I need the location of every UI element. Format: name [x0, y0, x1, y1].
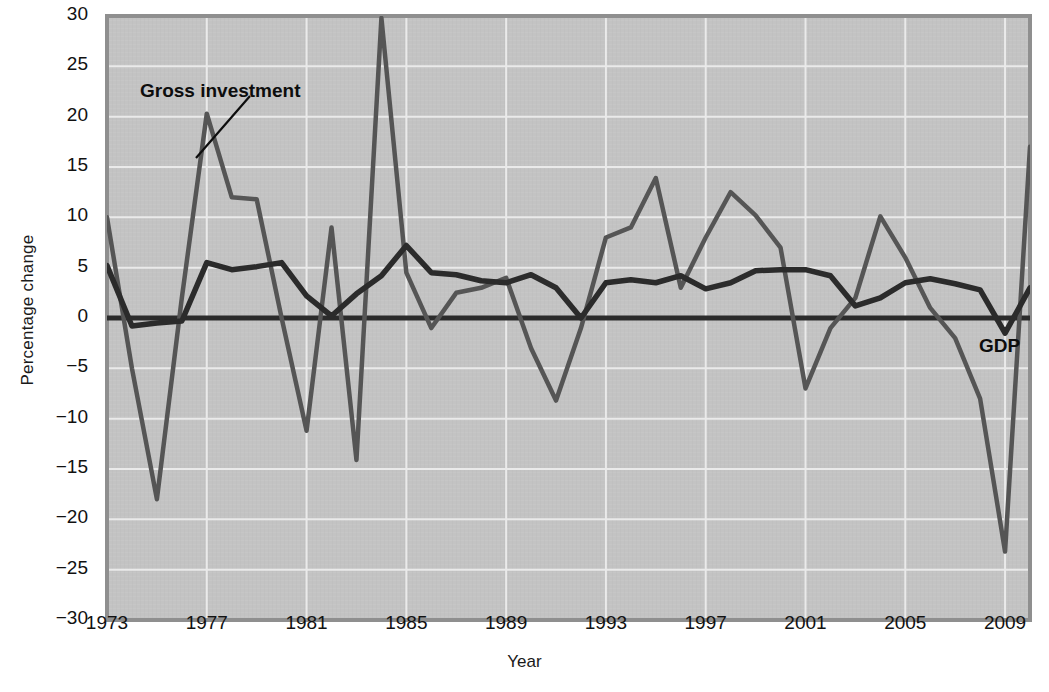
- chart-figure: Percentage change Year: [0, 0, 1049, 692]
- gross-investment-annotation: Gross investment: [140, 80, 301, 102]
- y-axis-tick-label: −20: [26, 506, 88, 528]
- x-axis-tick-label: 2001: [750, 612, 860, 634]
- x-axis-tick-label: 1981: [252, 612, 362, 634]
- x-axis-tick-label: 2005: [850, 612, 960, 634]
- y-axis-tick-label: 5: [26, 255, 88, 277]
- x-axis-tick-label: 1985: [351, 612, 461, 634]
- y-axis-tick-label: 10: [26, 204, 88, 226]
- x-axis-tick-label: 1989: [451, 612, 561, 634]
- y-axis-tick-label: −5: [26, 355, 88, 377]
- y-axis-tick-label: 25: [26, 53, 88, 75]
- x-axis-tick-label: 1993: [551, 612, 661, 634]
- y-axis-tick-label: −15: [26, 456, 88, 478]
- y-axis-tick-label: 30: [26, 3, 88, 25]
- x-axis-tick-label: 1973: [52, 612, 162, 634]
- y-axis-tick-label: −25: [26, 557, 88, 579]
- y-axis-tick-label: 15: [26, 154, 88, 176]
- y-axis-tick-label: 0: [26, 305, 88, 327]
- gdp-annotation: GDP: [979, 335, 1020, 357]
- x-axis-tick-label: 1997: [651, 612, 761, 634]
- x-axis-tick-label: 2009: [950, 612, 1049, 634]
- y-axis-tick-label: −10: [26, 406, 88, 428]
- y-axis-tick-label: 20: [26, 104, 88, 126]
- x-axis-tick-label: 1977: [152, 612, 262, 634]
- line-chart-plot: [0, 0, 1049, 692]
